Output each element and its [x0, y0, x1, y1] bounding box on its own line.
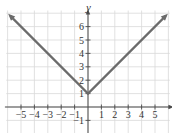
graph: −5−4−3−2−112345123456−1 y: [0, 0, 172, 133]
x-tick-label: 2: [112, 109, 117, 120]
y-tick-label: 3: [79, 61, 84, 72]
y-tick-label: 5: [79, 35, 84, 46]
x-tick-label: 5: [153, 109, 158, 120]
x-tick-label: −5: [16, 109, 27, 120]
x-tick-label: −2: [56, 109, 67, 120]
y-tick-label: 6: [79, 21, 84, 32]
x-tick-label: 4: [139, 109, 144, 120]
y-axis-label: y: [85, 1, 91, 13]
x-tick-label: −3: [42, 109, 53, 120]
y-tick-label: −1: [73, 115, 84, 126]
x-tick-label: −4: [29, 109, 40, 120]
x-tick-label: 3: [126, 109, 131, 120]
x-axis-arrow-icon: [168, 105, 172, 109]
x-tick-label: 1: [99, 109, 104, 120]
y-tick-label: 4: [79, 48, 84, 59]
tick-labels: −5−4−3−2−112345123456−1: [16, 21, 158, 126]
